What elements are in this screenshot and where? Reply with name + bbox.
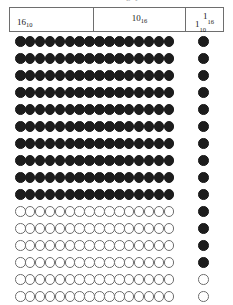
filled-dot (55, 172, 66, 183)
hollow-dot (134, 257, 145, 268)
unit-dot-row (198, 203, 209, 220)
hollow-dot (134, 274, 145, 285)
filled-dot (164, 155, 175, 166)
filled-dot (154, 53, 165, 64)
unit-dot-row (198, 220, 209, 237)
filled-dot (198, 70, 209, 81)
filled-dot (114, 53, 125, 64)
filled-dot (25, 155, 36, 166)
label-sixteen-decimal: 1610 (17, 18, 33, 27)
filled-dot (198, 104, 209, 115)
hollow-dot (164, 274, 175, 285)
hollow-dot (124, 240, 135, 251)
filled-dot (25, 138, 36, 149)
dot-row (15, 220, 174, 237)
label-one-decimal: 110 (195, 20, 206, 32)
hollow-dot (144, 291, 155, 302)
hollow-dot (154, 257, 165, 268)
filled-dot (15, 155, 26, 166)
label-ten-hexadecimal: 1016 (132, 14, 148, 23)
caption-strip: Table of counting symbols (0, 0, 233, 6)
filled-dot (55, 104, 66, 115)
hollow-dot (25, 223, 36, 234)
hollow-dot (114, 274, 125, 285)
filled-dot (35, 155, 46, 166)
filled-dot (134, 121, 145, 132)
filled-dot (45, 104, 56, 115)
filled-dot (144, 53, 155, 64)
hollow-dot (55, 206, 66, 217)
unit-dot-row (198, 254, 209, 271)
filled-dot (144, 121, 155, 132)
hollow-dot (114, 223, 125, 234)
filled-dot (25, 36, 36, 47)
filled-dot (144, 172, 155, 183)
label-one-decimal-value: 1 (195, 19, 200, 29)
filled-dot (134, 87, 145, 98)
header-cell-ten-hexadecimal: 1016 (94, 8, 186, 31)
unit-dot-row (198, 101, 209, 118)
filled-dot (134, 155, 145, 166)
filled-dot (25, 172, 36, 183)
filled-dot (124, 53, 135, 64)
filled-dot (134, 70, 145, 81)
filled-dot (35, 87, 46, 98)
header-cell-sixteen-decimal: 1610 (10, 8, 94, 31)
filled-dot (114, 36, 125, 47)
dot-row (15, 135, 174, 152)
filled-dot (198, 36, 209, 47)
filled-dot (114, 121, 125, 132)
filled-dot (15, 104, 26, 115)
filled-dot (15, 36, 26, 47)
filled-dot (198, 189, 209, 200)
hollow-dot (124, 291, 135, 302)
filled-dot (15, 70, 26, 81)
filled-dot (35, 138, 46, 149)
filled-dot (45, 172, 56, 183)
hollow-dot (144, 240, 155, 251)
label-one-unit-stack: 116 110 (186, 8, 223, 31)
filled-dot (164, 70, 175, 81)
hollow-dot (45, 274, 56, 285)
dot-row (15, 84, 174, 101)
filled-dot (154, 138, 165, 149)
dot-row (15, 237, 174, 254)
hollow-dot (114, 257, 125, 268)
hollow-dot (134, 291, 145, 302)
filled-dot (164, 172, 175, 183)
unit-dot-row (198, 50, 209, 67)
filled-dot (198, 87, 209, 98)
hollow-dot (35, 257, 46, 268)
hollow-dot (164, 240, 175, 251)
hollow-dot (15, 206, 26, 217)
filled-dot (134, 189, 145, 200)
filled-dot (35, 53, 46, 64)
filled-dot (45, 121, 56, 132)
dot-row (15, 101, 174, 118)
hollow-dot (15, 291, 26, 302)
filled-dot (198, 121, 209, 132)
label-ten-hexadecimal-value: 10 (132, 13, 141, 23)
hollow-dot (55, 274, 66, 285)
filled-dot (55, 138, 66, 149)
filled-dot (55, 70, 66, 81)
header-table: 1610 1016 116 110 (9, 7, 224, 32)
filled-dot (124, 104, 135, 115)
hollow-dot (124, 223, 135, 234)
filled-dot (134, 104, 145, 115)
filled-dot (55, 53, 66, 64)
filled-dot (124, 87, 135, 98)
filled-dot (198, 138, 209, 149)
hollow-dot (124, 257, 135, 268)
filled-dot (164, 53, 175, 64)
filled-dot (45, 138, 56, 149)
unit-dot-row (198, 288, 209, 305)
hollow-dot (198, 291, 209, 302)
filled-dot (114, 138, 125, 149)
filled-dot (124, 138, 135, 149)
hollow-dot (144, 223, 155, 234)
hollow-dot (15, 240, 26, 251)
filled-dot (35, 121, 46, 132)
dot-row (15, 50, 174, 67)
filled-dot (144, 36, 155, 47)
